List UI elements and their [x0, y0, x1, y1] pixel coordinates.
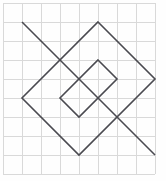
- figure-container: [0, 0, 166, 181]
- geometric-figure: [0, 0, 166, 181]
- figure-background: [0, 0, 166, 181]
